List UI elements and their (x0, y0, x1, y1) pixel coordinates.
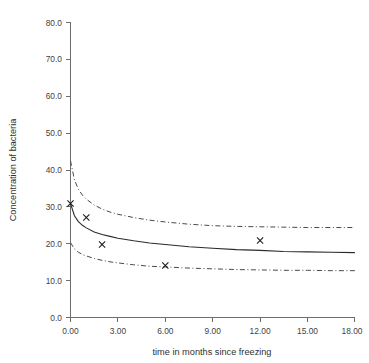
x-tick-label-6: 18.00 (342, 326, 363, 336)
chart-canvas: 0.0 10.0 20.0 30.0 40.0 50.0 60.0 70.0 8… (0, 0, 369, 363)
y-axis-ticks: 0.0 10.0 20.0 30.0 40.0 50.0 60.0 70.0 8… (46, 18, 71, 323)
y-tick-label-3: 30.0 (46, 202, 63, 212)
data-point-marker (83, 214, 89, 220)
x-axis-ticks: 0.00 3.00 6.00 9.00 12.00 15.00 18.00 (62, 318, 362, 337)
x-tick-label-2: 6.00 (157, 326, 174, 336)
data-point-markers (67, 200, 263, 268)
x-tick-label-4: 12.00 (250, 326, 271, 336)
y-tick-label-0: 0.0 (50, 313, 62, 323)
y-tick-label-2: 20.0 (46, 239, 63, 249)
y-axis-title: Concentration of bacteria (8, 118, 18, 222)
series-path-1 (71, 161, 355, 228)
data-point-marker (257, 237, 263, 243)
series-path-0 (71, 204, 355, 253)
y-tick-label-7: 70.0 (46, 54, 63, 64)
x-tick-label-1: 3.00 (110, 326, 127, 336)
y-tick-label-5: 50.0 (46, 128, 63, 138)
x-tick-label-3: 9.00 (205, 326, 222, 336)
x-tick-label-5: 15.00 (297, 326, 318, 336)
series-layer (71, 161, 355, 271)
y-tick-label-4: 40.0 (46, 165, 63, 175)
x-tick-label-0: 0.00 (62, 326, 79, 336)
series-path-2 (71, 243, 355, 271)
y-tick-label-6: 60.0 (46, 91, 63, 101)
data-point-marker (162, 262, 168, 268)
x-axis-title: time in months since freezing (153, 347, 272, 357)
chart-figure: 0.0 10.0 20.0 30.0 40.0 50.0 60.0 70.0 8… (0, 0, 369, 363)
y-tick-label-1: 10.0 (46, 276, 63, 286)
data-point-marker (99, 241, 105, 247)
y-tick-label-8: 80.0 (46, 18, 63, 28)
